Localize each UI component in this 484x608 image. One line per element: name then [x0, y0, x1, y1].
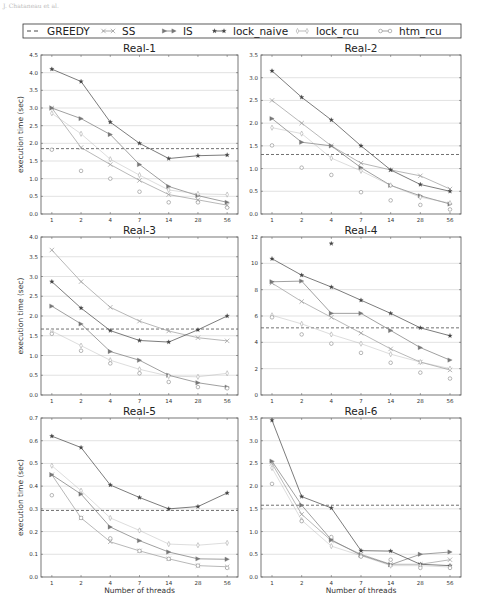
is-marker-icon — [137, 358, 141, 362]
lock_naive-marker-icon — [137, 338, 142, 342]
is-marker-icon — [225, 557, 229, 561]
is-marker-icon — [448, 550, 452, 554]
lock_naive-marker-icon — [448, 189, 453, 193]
ss-marker-icon — [79, 145, 83, 149]
y-tick-label: 0.5 — [29, 193, 38, 199]
htm_rcu-marker-icon — [167, 201, 171, 205]
x-axis-label: Number of threads — [104, 586, 175, 595]
x-tick-label: 2 — [300, 580, 304, 586]
series-ss — [270, 281, 452, 372]
htm_rcu-marker-icon — [300, 333, 304, 337]
y-tick-label: 3.5 — [249, 415, 258, 421]
y-tick-label: 4.5 — [29, 52, 38, 58]
is-marker-icon — [108, 525, 112, 529]
y-tick-label: 2.0 — [29, 140, 38, 146]
lock_rcu-marker-icon — [197, 543, 200, 548]
x-tick-label: 1 — [50, 580, 54, 586]
y-tick-label: 3.0 — [29, 105, 38, 111]
figure: GREEDYSSISlock_naivelock_rcuhtm_rcu 0.00… — [0, 0, 484, 608]
ss-marker-icon — [50, 248, 54, 252]
x-tick-label: 56 — [447, 580, 454, 586]
is-marker-icon — [270, 459, 274, 463]
htm_rcu-marker-icon — [108, 177, 112, 181]
y-tick-label: 6 — [255, 313, 259, 319]
x-tick-label: 14 — [165, 398, 172, 404]
ss-marker-icon — [137, 319, 141, 323]
htm_rcu-marker-icon — [196, 385, 200, 389]
htm_rcu-marker-icon — [389, 199, 393, 203]
annotation-lock_naive-marker-icon — [329, 241, 334, 245]
htm_rcu-marker-icon — [419, 371, 423, 375]
is-marker-icon — [359, 311, 363, 315]
htm_rcu-marker-icon — [79, 349, 83, 353]
lock_rcu-marker-icon — [389, 352, 392, 357]
y-tick-label: 2 — [255, 366, 259, 372]
series-lock_rcu — [271, 313, 452, 372]
is-marker-icon — [79, 116, 83, 120]
y-tick-label: 1.0 — [249, 166, 258, 172]
lock_naive-marker-icon — [137, 495, 142, 499]
ss-marker-icon — [79, 279, 83, 283]
htm_rcu-marker-icon — [359, 190, 363, 194]
y-tick-label: 1.5 — [249, 506, 258, 512]
lock_rcu-marker-icon — [138, 367, 141, 372]
lock_naive-marker-icon — [166, 340, 171, 344]
lock_naive-marker-icon — [79, 445, 84, 449]
y-tick-label: 0.5 — [249, 188, 258, 194]
x-axis-label: Number of threads — [326, 586, 397, 595]
is-marker-icon — [299, 140, 303, 144]
chart-panels: 0.00.51.01.52.02.53.03.54.04.51247142856… — [16, 42, 461, 595]
htm_rcu-marker-icon — [448, 566, 452, 570]
x-tick-label: 4 — [109, 580, 113, 586]
x-tick-label: 7 — [359, 580, 363, 586]
x-tick-label: 4 — [330, 580, 334, 586]
y-tick-label: 0.3 — [29, 506, 38, 512]
lock_rcu-marker-icon — [80, 131, 83, 136]
ss-marker-icon — [108, 305, 112, 309]
ss-marker-icon — [108, 162, 112, 166]
ss-marker-icon — [299, 512, 303, 516]
lock_rcu-marker-icon — [167, 541, 170, 546]
y-tick-label: 0.0 — [249, 574, 258, 580]
lock_rcu-marker-icon — [80, 343, 83, 348]
ss-marker-icon — [388, 347, 392, 351]
legend-htm_rcu-marker-icon — [379, 29, 383, 33]
x-tick-label: 2 — [79, 217, 83, 223]
series-htm_rcu — [270, 316, 452, 381]
lock_naive-marker-icon — [225, 153, 230, 157]
lock_naive-marker-icon — [418, 182, 423, 186]
y-tick-label: 10 — [251, 260, 258, 266]
x-tick-label: 2 — [300, 398, 304, 404]
x-tick-label: 14 — [165, 217, 172, 223]
chart-panel-real-2: 0.00.51.01.52.02.53.03.51247142856Real-2 — [249, 42, 461, 223]
y-tick-label: 8 — [255, 287, 259, 293]
x-tick-label: 4 — [330, 398, 334, 404]
chart-title: Real-6 — [344, 405, 377, 417]
x-tick-label: 28 — [194, 580, 201, 586]
lock_naive-marker-icon — [299, 273, 304, 277]
series-lock_naive — [50, 434, 230, 511]
lock_naive-marker-icon — [166, 156, 171, 160]
lock_rcu-marker-icon — [226, 540, 229, 545]
htm_rcu-marker-icon — [167, 557, 171, 561]
x-tick-label: 2 — [300, 217, 304, 223]
y-tick-label: 1.0 — [29, 353, 38, 359]
htm_rcu-marker-icon — [108, 362, 112, 366]
x-tick-label: 56 — [447, 217, 454, 223]
htm_rcu-marker-icon — [389, 558, 393, 562]
htm_rcu-marker-icon — [225, 206, 229, 210]
is-marker-icon — [108, 349, 112, 353]
y-tick-label: 3.0 — [249, 75, 258, 81]
lock_naive-marker-icon — [50, 67, 55, 71]
y-tick-label: 2.5 — [29, 123, 38, 129]
chart-panel-real-4: 0246810121247142856Real-4 — [251, 224, 461, 404]
series-lock_naive — [50, 67, 230, 161]
x-tick-label: 56 — [224, 580, 231, 586]
htm_rcu-marker-icon — [419, 203, 423, 207]
lock_rcu-marker-icon — [109, 515, 112, 520]
htm_rcu-marker-icon — [448, 208, 452, 212]
y-tick-label: 4.0 — [29, 70, 38, 76]
x-tick-label: 56 — [224, 217, 231, 223]
y-tick-label: 4.0 — [29, 234, 38, 240]
ss-marker-icon — [359, 331, 363, 335]
